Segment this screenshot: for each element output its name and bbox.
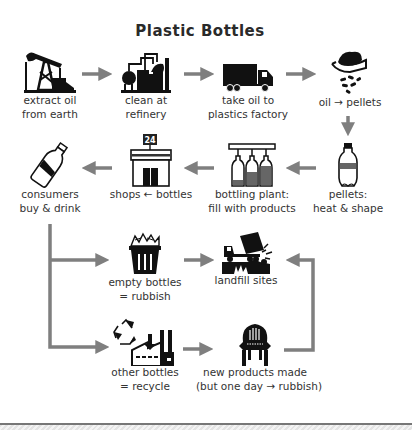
label-line: (but one day → rubbish) [196, 380, 314, 394]
truck-icon [221, 50, 275, 94]
chair-icon [237, 322, 273, 366]
step-label: shops ← bottles [104, 188, 198, 202]
step-label: extract oil from earth [14, 94, 86, 121]
label-line: heat & shape [304, 202, 392, 216]
step-label: oil → pellets [308, 96, 392, 110]
label-line: other bottles [104, 366, 186, 380]
step-label: bottling plant: fill with products [200, 188, 304, 215]
step-label: other bottles = recycle [104, 366, 186, 393]
step-label: consumers buy & drink [10, 188, 90, 215]
bottle-icon [336, 142, 360, 188]
shop-icon: 24 [127, 134, 175, 188]
bottom-band [0, 425, 412, 430]
step-label: clean at refinery [110, 94, 182, 121]
recycle-factory-icon [112, 318, 178, 366]
refinery-icon [119, 50, 173, 94]
trash-bin-icon [125, 232, 165, 276]
label-line: clean at [110, 94, 182, 108]
oil-pump-icon [22, 50, 78, 94]
label-line: refinery [110, 108, 182, 122]
label-line: empty bottles [104, 276, 186, 290]
label-line: pellets: [304, 188, 392, 202]
label-line: consumers [10, 188, 90, 202]
step-label: take oil to plastics factory [206, 94, 290, 121]
bottling-line-icon [226, 142, 278, 188]
diagram-title: Plastic Bottles [0, 22, 400, 40]
step-shops: 24 shops ← bottles [104, 134, 198, 202]
step-heat-shape: pellets: heat & shape [304, 142, 392, 215]
label-line: fill with products [200, 202, 304, 216]
label-line: = rubbish [104, 290, 186, 304]
step-refinery: clean at refinery [110, 50, 182, 121]
step-label: new products made (but one day → rubbish… [196, 366, 314, 393]
label-line: extract oil [14, 94, 86, 108]
label-line: oil → pellets [308, 96, 392, 110]
label-line: buy & drink [10, 202, 90, 216]
drink-bottle-icon [28, 142, 72, 188]
hand-pellets-icon [328, 46, 372, 96]
step-bottling-plant: bottling plant: fill with products [200, 142, 304, 215]
step-pellets: oil → pellets [308, 46, 392, 110]
label-line: shops ← bottles [104, 188, 198, 202]
label-line: = recycle [104, 380, 186, 394]
step-label: landfill sites [206, 274, 286, 288]
step-landfill: landfill sites [206, 232, 286, 288]
step-label: empty bottles = rubbish [104, 276, 186, 303]
label-line: new products made [196, 366, 314, 380]
step-label: pellets: heat & shape [304, 188, 392, 215]
label-line: landfill sites [206, 274, 286, 288]
shop-sign-24: 24 [144, 136, 156, 145]
label-line: from earth [14, 108, 86, 122]
label-line: bottling plant: [200, 188, 304, 202]
step-recycle: other bottles = recycle [104, 318, 186, 393]
step-extract-oil: extract oil from earth [14, 50, 86, 121]
connector-consumers-branch [50, 224, 103, 347]
dump-truck-icon [218, 232, 274, 274]
label-line: take oil to [206, 94, 290, 108]
step-empty-bottles: empty bottles = rubbish [104, 232, 186, 303]
step-consumers: consumers buy & drink [10, 142, 90, 215]
step-new-products: new products made (but one day → rubbish… [196, 322, 314, 393]
label-line: plastics factory [206, 108, 290, 122]
step-transport: take oil to plastics factory [206, 50, 290, 121]
